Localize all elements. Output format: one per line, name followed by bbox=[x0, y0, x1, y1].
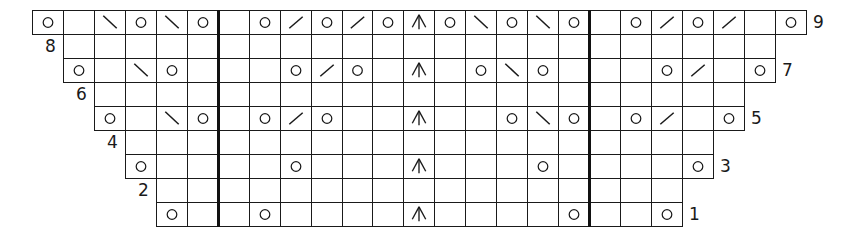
yarn-over-icon bbox=[652, 59, 682, 82]
yarn-over-icon bbox=[652, 203, 682, 226]
knit-empty-cell bbox=[218, 178, 250, 203]
knit-empty-cell bbox=[682, 106, 714, 131]
knit-empty-cell bbox=[125, 34, 157, 59]
yarn-over-icon bbox=[373, 11, 403, 34]
knit-empty-cell bbox=[620, 202, 652, 227]
knit-empty-cell bbox=[125, 130, 157, 155]
yarn-over-cell bbox=[527, 154, 559, 179]
knit-empty-cell bbox=[218, 154, 250, 179]
knit-empty-cell bbox=[651, 34, 683, 59]
yarn-over-icon bbox=[776, 11, 806, 34]
ssk-left-leaning-decrease-cell bbox=[156, 106, 188, 131]
knit-empty-cell bbox=[620, 154, 652, 179]
yarn-over-icon bbox=[250, 11, 280, 34]
yarn-over-cell bbox=[280, 154, 312, 179]
knit-empty-cell bbox=[156, 130, 188, 155]
centered-double-decrease-cell bbox=[403, 58, 435, 83]
knit-empty-cell bbox=[620, 130, 652, 155]
knit-empty-cell bbox=[744, 34, 776, 59]
yarn-over-icon bbox=[250, 107, 280, 130]
yarn-over-cell bbox=[280, 58, 312, 83]
knit-empty-cell bbox=[558, 34, 590, 59]
knit-empty-cell bbox=[403, 34, 435, 59]
yarn-over-icon bbox=[683, 11, 713, 34]
knit-empty-cell bbox=[434, 130, 466, 155]
knit-empty-cell bbox=[620, 58, 652, 83]
yarn-over-cell bbox=[32, 10, 64, 35]
yarn-over-icon bbox=[312, 11, 342, 34]
k2tog-right-leaning-decrease-cell bbox=[651, 106, 683, 131]
yarn-over-cell bbox=[465, 58, 497, 83]
ssk-left-leaning-decrease-cell bbox=[125, 58, 157, 83]
knit-empty-cell bbox=[558, 154, 590, 179]
knit-empty-cell bbox=[187, 58, 219, 83]
centered-double-decrease-icon bbox=[404, 11, 434, 34]
repeat-divider-line bbox=[217, 10, 220, 227]
k2tog-right-leaning-decrease-cell bbox=[280, 10, 312, 35]
knit-empty-cell bbox=[434, 58, 466, 83]
knit-empty-cell bbox=[403, 130, 435, 155]
yarn-over-cell bbox=[744, 58, 776, 83]
knit-empty-cell bbox=[249, 154, 281, 179]
yarn-over-cell bbox=[156, 202, 188, 227]
yarn-over-icon bbox=[621, 107, 651, 130]
knit-empty-cell bbox=[496, 154, 528, 179]
knit-empty-cell bbox=[311, 34, 343, 59]
k2tog-right-leaning-decrease-cell bbox=[713, 10, 745, 35]
yarn-over-cell bbox=[496, 106, 528, 131]
ssk-left-leaning-decrease-icon bbox=[95, 11, 125, 34]
yarn-over-cell bbox=[527, 58, 559, 83]
yarn-over-cell bbox=[187, 106, 219, 131]
yarn-over-icon bbox=[188, 11, 218, 34]
yarn-over-cell bbox=[775, 10, 807, 35]
knit-empty-cell bbox=[713, 58, 745, 83]
yarn-over-cell bbox=[63, 58, 95, 83]
knit-empty-cell bbox=[496, 34, 528, 59]
knit-empty-cell bbox=[589, 178, 621, 203]
knit-empty-cell bbox=[527, 178, 559, 203]
knit-empty-cell bbox=[651, 82, 683, 107]
knit-empty-cell bbox=[187, 130, 219, 155]
k2tog-right-leaning-decrease-icon bbox=[281, 11, 311, 34]
knit-empty-cell bbox=[187, 82, 219, 107]
knit-empty-cell bbox=[249, 34, 281, 59]
k2tog-right-leaning-decrease-cell bbox=[311, 58, 343, 83]
knit-empty-cell bbox=[403, 178, 435, 203]
ssk-left-leaning-decrease-cell bbox=[94, 10, 126, 35]
yarn-over-icon bbox=[157, 203, 187, 226]
yarn-over-cell bbox=[558, 202, 590, 227]
knit-empty-cell bbox=[372, 82, 404, 107]
yarn-over-cell bbox=[682, 154, 714, 179]
knit-empty-cell bbox=[589, 130, 621, 155]
knit-empty-cell bbox=[342, 130, 373, 155]
yarn-over-cell bbox=[249, 202, 281, 227]
k2tog-right-leaning-decrease-icon bbox=[652, 11, 682, 34]
yarn-over-cell bbox=[496, 10, 528, 35]
yarn-over-cell bbox=[620, 10, 652, 35]
knit-empty-cell bbox=[589, 202, 621, 227]
knit-empty-cell bbox=[372, 130, 404, 155]
knit-empty-cell bbox=[218, 82, 250, 107]
yarn-over-icon bbox=[528, 155, 558, 178]
row-number-label: 9 bbox=[813, 10, 824, 34]
k2tog-right-leaning-decrease-cell bbox=[280, 106, 312, 131]
knit-empty-cell bbox=[372, 154, 404, 179]
knit-empty-cell bbox=[372, 58, 404, 83]
yarn-over-icon bbox=[683, 155, 713, 178]
k2tog-right-leaning-decrease-cell bbox=[651, 10, 683, 35]
yarn-over-icon bbox=[714, 107, 744, 130]
ssk-left-leaning-decrease-cell bbox=[465, 10, 497, 35]
row-number-label: 8 bbox=[45, 34, 56, 58]
knit-empty-cell bbox=[589, 58, 621, 83]
knit-empty-cell bbox=[372, 178, 404, 203]
knit-empty-cell bbox=[527, 82, 559, 107]
yarn-over-icon bbox=[281, 59, 311, 82]
k2tog-right-leaning-decrease-cell bbox=[682, 58, 714, 83]
k2tog-right-leaning-decrease-icon bbox=[714, 11, 744, 34]
knit-empty-cell bbox=[527, 130, 559, 155]
ssk-left-leaning-decrease-icon bbox=[528, 11, 558, 34]
knit-empty-cell bbox=[713, 82, 745, 107]
knit-empty-cell bbox=[558, 130, 590, 155]
knit-empty-cell bbox=[156, 154, 188, 179]
knit-empty-cell bbox=[527, 34, 559, 59]
